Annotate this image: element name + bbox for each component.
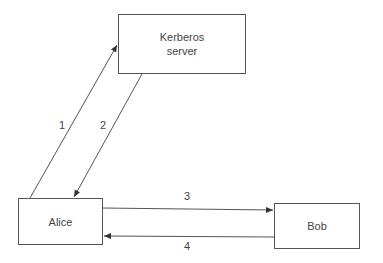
kerberos-label-line2: server bbox=[160, 44, 205, 58]
edge-3-arrow bbox=[102, 208, 273, 210]
kerberos-label-line1: Kerberos bbox=[160, 30, 205, 44]
alice-label: Alice bbox=[49, 215, 73, 229]
edge-4-arrow bbox=[104, 236, 274, 237]
kerberos-server-node: Kerberos server bbox=[118, 14, 246, 74]
edge-3-label: 3 bbox=[184, 190, 190, 202]
edge-1-label: 1 bbox=[59, 119, 65, 131]
edge-2-label: 2 bbox=[100, 119, 106, 131]
edge-4-label: 4 bbox=[184, 240, 190, 252]
bob-label: Bob bbox=[307, 219, 327, 233]
edge-2-arrow bbox=[74, 74, 142, 197]
alice-node: Alice bbox=[18, 198, 103, 245]
bob-node: Bob bbox=[274, 203, 360, 249]
